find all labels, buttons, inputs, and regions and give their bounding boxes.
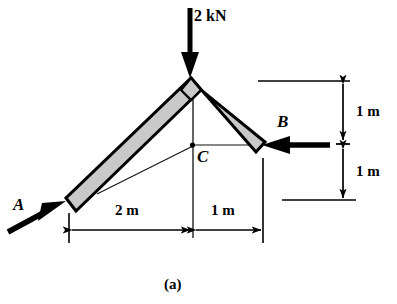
point-label-b: B [277, 113, 288, 130]
member-right [191, 78, 265, 152]
load-label-2kn: 2 kN [194, 8, 226, 24]
figure-caption: (a) [164, 277, 182, 292]
dim-label-1m-bottom: 1 m [211, 203, 235, 218]
member-left [66, 78, 201, 211]
force-arrow-b [262, 136, 330, 154]
vertical-dimensions [258, 81, 356, 200]
point-label-a: A [13, 196, 24, 213]
dim-label-2m: 2 m [115, 203, 139, 218]
figure-container: 2 kN A B C 2 m 1 m 1 m 1 m (a) [0, 0, 397, 304]
point-label-c: C [197, 148, 208, 165]
point-c-marker [190, 142, 195, 147]
dim-label-1m-lower: 1 m [356, 164, 380, 179]
dim-label-1m-upper: 1 m [356, 104, 380, 119]
